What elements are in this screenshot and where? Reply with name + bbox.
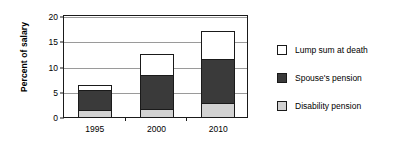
legend-swatch-icon bbox=[277, 73, 287, 83]
x-tick-label-2000: 2000 bbox=[147, 124, 166, 134]
legend-label: Spouse's pension bbox=[295, 73, 362, 83]
y-tick-label: 15 bbox=[49, 37, 58, 47]
bar-segment[interactable] bbox=[140, 75, 174, 111]
x-tick-mark bbox=[186, 117, 187, 121]
x-tick-mark bbox=[125, 117, 126, 121]
legend-item[interactable]: Lump sum at death bbox=[277, 36, 403, 64]
bar-segment[interactable] bbox=[78, 110, 112, 117]
bar-segment[interactable] bbox=[201, 103, 235, 117]
legend-item[interactable]: Disability pension bbox=[277, 92, 403, 120]
gridline bbox=[64, 17, 247, 18]
legend-item[interactable]: Spouse's pension bbox=[277, 64, 403, 92]
stacked-bar-chart: Percent of salary 05101520199520002010 L… bbox=[0, 0, 407, 151]
y-tick-mark bbox=[60, 92, 64, 93]
bar-2010[interactable] bbox=[201, 31, 235, 117]
y-tick-mark bbox=[60, 118, 64, 119]
bar-segment[interactable] bbox=[78, 90, 112, 111]
y-tick-mark bbox=[60, 17, 64, 18]
legend-swatch-icon bbox=[277, 101, 287, 111]
y-axis-title: Percent of salary bbox=[19, 2, 29, 112]
bar-1995[interactable] bbox=[78, 85, 112, 117]
y-tick-mark bbox=[60, 42, 64, 43]
bar-segment[interactable] bbox=[201, 59, 235, 104]
y-tick-label: 5 bbox=[53, 88, 58, 98]
plot-area: 05101520199520002010 bbox=[63, 15, 248, 118]
chart-legend: Lump sum at deathSpouse's pensionDisabil… bbox=[277, 36, 403, 120]
y-tick-label: 10 bbox=[49, 63, 58, 73]
y-tick-mark bbox=[60, 67, 64, 68]
bar-segment[interactable] bbox=[140, 54, 174, 75]
x-tick-label-2010: 2010 bbox=[209, 124, 228, 134]
legend-swatch-icon bbox=[277, 45, 287, 55]
bar-2000[interactable] bbox=[140, 54, 174, 117]
legend-label: Disability pension bbox=[295, 101, 361, 111]
bar-segment[interactable] bbox=[201, 31, 235, 60]
bar-segment[interactable] bbox=[140, 109, 174, 117]
y-tick-label: 0 bbox=[53, 113, 58, 123]
legend-label: Lump sum at death bbox=[295, 45, 368, 55]
x-tick-label-1995: 1995 bbox=[85, 124, 104, 134]
y-tick-label: 20 bbox=[49, 12, 58, 22]
